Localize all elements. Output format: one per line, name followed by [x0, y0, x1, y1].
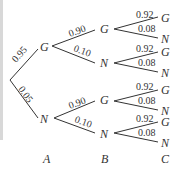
stage-label-B: B — [101, 152, 109, 166]
prob-GN-N: 0.08 — [138, 57, 156, 68]
node-A-G: G — [40, 40, 49, 54]
prob-GG-N: 0.08 — [138, 23, 156, 34]
node-NN: N — [99, 127, 109, 141]
node-NNG: G — [161, 115, 170, 129]
stage-label-A: A — [42, 152, 51, 166]
node-GGN: N — [160, 32, 170, 46]
prob-A-N: 0.05 — [16, 84, 35, 105]
prob-NG-N: 0.08 — [138, 95, 156, 106]
prob-GN-G: 0.92 — [136, 43, 154, 54]
prob-N-G: 0.90 — [67, 95, 87, 111]
tree-svg: 0.95 0.05 G N 0.90 0.10 G N 0.90 0.10 G … — [0, 0, 180, 173]
node-GG: G — [100, 22, 109, 36]
node-NNN: N — [160, 136, 170, 150]
prob-G-G: 0.90 — [67, 23, 87, 39]
prob-G-N: 0.10 — [72, 43, 92, 59]
prob-N-N: 0.10 — [73, 114, 93, 130]
prob-NN-N: 0.08 — [138, 127, 156, 138]
node-NG: G — [100, 93, 109, 107]
prob-A-G: 0.95 — [9, 44, 29, 64]
prob-NG-G: 0.92 — [136, 81, 154, 92]
node-GNG: G — [161, 45, 170, 59]
node-A-N: N — [39, 112, 49, 126]
node-NGG: G — [161, 83, 170, 97]
prob-NN-G: 0.92 — [136, 113, 154, 124]
node-GGG: G — [161, 11, 170, 25]
prob-GG-G: 0.92 — [136, 9, 154, 20]
stage-label-C: C — [161, 152, 170, 166]
probability-tree-diagram: 0.95 0.05 G N 0.90 0.10 G N 0.90 0.10 G … — [0, 0, 180, 173]
node-GNN: N — [160, 66, 170, 80]
node-GN: N — [99, 56, 109, 70]
